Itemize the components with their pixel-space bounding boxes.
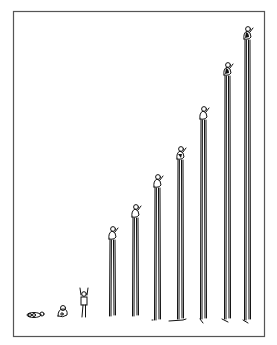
- figure-stage-9: [222, 63, 233, 322]
- frame: [14, 12, 265, 337]
- figure-stage-3: [80, 288, 88, 317]
- illustration: [0, 0, 277, 345]
- figure-stage-4: [109, 227, 118, 316]
- figure-stage-1: [27, 312, 44, 318]
- figure-stage-6: [152, 175, 163, 320]
- figure-stage-7: [169, 147, 186, 321]
- figure-stage-2: [58, 306, 67, 317]
- figure-sequence: [27, 27, 253, 323]
- figure-stage-5: [132, 205, 141, 316]
- figure-stage-8: [200, 107, 209, 323]
- figure-stage-10: [243, 27, 253, 323]
